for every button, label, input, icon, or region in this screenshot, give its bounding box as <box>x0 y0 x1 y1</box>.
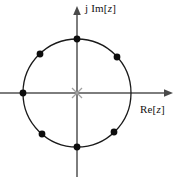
imaginary-axis-label-func: Im[ <box>91 2 107 14</box>
point-marker <box>74 144 81 151</box>
zplane-plot <box>0 0 177 177</box>
real-axis-label-suffix: ] <box>161 103 165 115</box>
point-marker <box>111 129 118 136</box>
imaginary-axis-label-suffix: ] <box>112 2 116 14</box>
point-marker <box>74 36 81 43</box>
real-axis-arrow <box>164 89 173 97</box>
imaginary-axis-label: j Im[z] <box>85 3 116 14</box>
imaginary-axis-arrow <box>73 6 81 15</box>
point-marker <box>39 131 46 138</box>
real-axis-label: Re[z] <box>140 104 165 115</box>
real-axis-label-func: Re[ <box>140 103 156 115</box>
point-marker <box>20 90 27 97</box>
point-marker <box>37 51 44 58</box>
zplane-figure: j Im[z] Re[z] <box>0 0 177 177</box>
point-marker <box>114 54 121 61</box>
